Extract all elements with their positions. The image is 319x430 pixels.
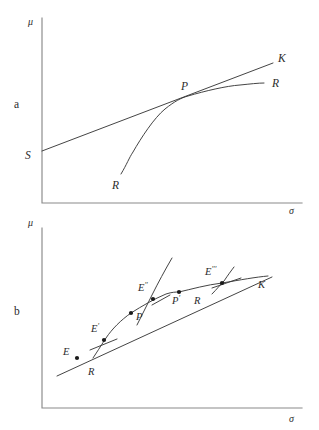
panel-b-point-e-triple-prime xyxy=(220,281,224,285)
panel-a-frontier-curve xyxy=(121,83,264,174)
panel-b-label-e-double-prime: E′′ xyxy=(137,281,148,293)
panel-b-label-p-prime: P′ xyxy=(171,294,180,306)
panel-b-axes xyxy=(42,228,302,408)
panel-b-label-k: K xyxy=(257,279,266,290)
panel-a-label-s: S xyxy=(25,149,31,161)
panel-a-y-axis-label: μ xyxy=(27,16,33,27)
panel-a: μ σ a S K P R R xyxy=(0,0,319,215)
panel-b-label-e-triple-prime: E′′′ xyxy=(204,265,217,277)
panel-b-y-axis-label: μ xyxy=(27,217,33,228)
panel-b-label-e-prime: E′ xyxy=(90,322,99,334)
panel-b-x-axis-label: σ xyxy=(289,413,295,424)
panel-b-label-r-mid: R xyxy=(193,295,201,306)
panel-b-capital-market-line xyxy=(57,277,272,376)
panel-b-label-e-double-prime-tick: ′′ xyxy=(144,281,148,290)
panel-a-label-p: P xyxy=(180,80,188,92)
panel-b-frontier-curve-lower xyxy=(93,292,179,358)
panel-b-label-e-prime-tick: ′ xyxy=(97,322,99,331)
panel-a-label-k: K xyxy=(277,52,287,64)
panel-a-letter: a xyxy=(14,98,19,110)
figure-root: μ σ a S K P R R μ σ xyxy=(0,0,319,430)
panel-b-point-e-prime xyxy=(102,338,106,342)
panel-b-tangent-segment-3 xyxy=(212,278,241,288)
panel-b-label-r-lower: R xyxy=(87,366,95,377)
panel-b-label-e-triple-prime-tick: ′′′ xyxy=(211,265,216,274)
panel-a-label-r-upper: R xyxy=(271,77,279,89)
panel-b-point-e xyxy=(75,356,79,360)
panel-b-label-e: E xyxy=(62,346,70,357)
panel-b-point-p xyxy=(129,311,133,315)
panel-b: μ σ b E E′ P E′′ P′ R E′′′ K R xyxy=(0,215,319,430)
panel-a-x-axis-label: σ xyxy=(289,205,295,215)
panel-b-label-p: P xyxy=(135,311,143,322)
panel-a-axes xyxy=(42,18,302,203)
panel-b-point-e-double-prime xyxy=(151,297,155,301)
panel-a-label-r-lower: R xyxy=(111,179,119,191)
panel-b-letter: b xyxy=(14,305,20,317)
panel-a-capital-market-line xyxy=(42,63,273,151)
panel-b-label-p-prime-tick: ′ xyxy=(178,294,180,303)
